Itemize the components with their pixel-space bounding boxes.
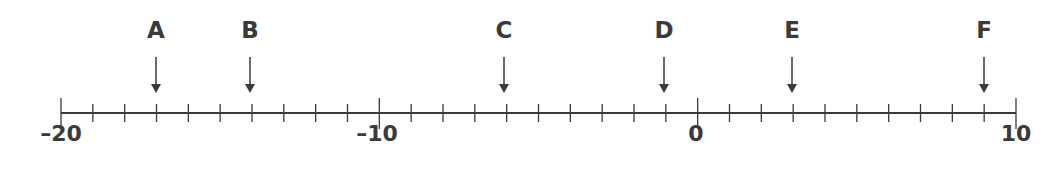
point-label-D: D bbox=[654, 17, 673, 43]
tick-label-10: 10 bbox=[1001, 121, 1032, 146]
tick-label-0: 0 bbox=[688, 121, 703, 146]
arrow-head-icon bbox=[151, 84, 161, 93]
point-A: A bbox=[147, 17, 165, 93]
point-F: F bbox=[976, 17, 992, 93]
arrow-head-icon bbox=[979, 84, 989, 93]
point-label-F: F bbox=[976, 17, 992, 43]
arrow-head-icon bbox=[787, 84, 797, 93]
arrow-head-icon bbox=[499, 84, 509, 93]
point-label-C: C bbox=[496, 17, 513, 43]
tick-label-minus-10: –10 bbox=[356, 121, 398, 146]
point-label-B: B bbox=[241, 17, 259, 43]
point-label-A: A bbox=[147, 17, 165, 43]
point-D: D bbox=[654, 17, 673, 93]
point-B: B bbox=[241, 17, 259, 93]
arrow-head-icon bbox=[659, 84, 669, 93]
number-line-diagram: –20 –10 0 10 A B C D E F bbox=[0, 0, 1054, 179]
point-E: E bbox=[784, 17, 800, 93]
point-markers: A B C D E F bbox=[147, 17, 992, 93]
arrow-head-icon bbox=[245, 84, 255, 93]
point-label-E: E bbox=[784, 17, 800, 43]
tick-label-minus-20: –20 bbox=[40, 121, 82, 146]
point-C: C bbox=[496, 17, 513, 93]
